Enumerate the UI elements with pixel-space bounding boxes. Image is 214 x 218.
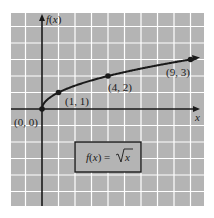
sqrt-function-graph: f(x) x (0, 0) (1, 1) (4, 2) (9, 3) f(x) …: [0, 0, 214, 218]
x-axis-label: x: [194, 111, 200, 123]
point-9-3: [188, 57, 194, 63]
label-0-0: (0, 0): [14, 116, 38, 129]
label-4-2: (4, 2): [108, 81, 132, 94]
formula-text: f(x) =: [86, 151, 110, 164]
label-1-1: (1, 1): [65, 95, 89, 108]
formula-radicand: x: [124, 151, 130, 163]
point-1-1: [56, 90, 62, 96]
y-axis-label: f(x): [46, 13, 62, 26]
point-4-2: [105, 73, 111, 79]
point-0-0: [39, 106, 45, 112]
label-9-3: (9, 3): [166, 66, 190, 79]
